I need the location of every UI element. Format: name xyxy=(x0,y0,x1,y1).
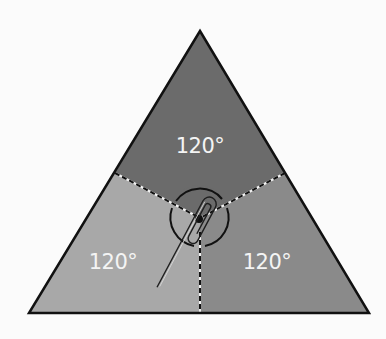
angle-label-top: 120° xyxy=(176,134,225,158)
triangle-angle-diagram: 120° 120° 120° xyxy=(0,0,386,339)
angle-label-right: 120° xyxy=(243,250,292,274)
angle-label-left: 120° xyxy=(89,250,138,274)
